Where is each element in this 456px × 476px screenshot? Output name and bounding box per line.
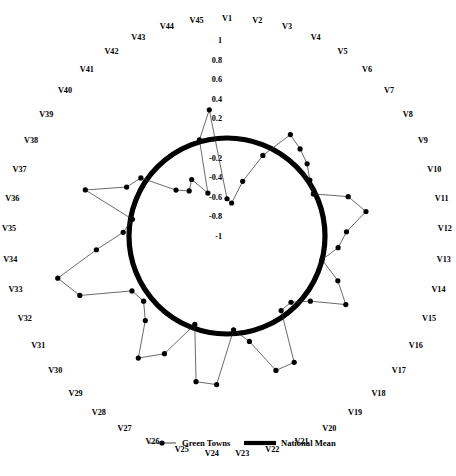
data-point-marker bbox=[214, 382, 219, 387]
category-label-v8: V8 bbox=[403, 110, 413, 119]
category-label-v16: V16 bbox=[409, 341, 423, 350]
category-label-v42: V42 bbox=[104, 47, 118, 56]
tick-label: 1 bbox=[218, 36, 222, 45]
data-point-marker bbox=[279, 308, 284, 313]
data-point-marker bbox=[319, 257, 324, 262]
category-label-v4: V4 bbox=[311, 33, 321, 42]
category-label-v30: V30 bbox=[48, 366, 62, 375]
category-label-v29: V29 bbox=[69, 389, 83, 398]
category-label-v2: V2 bbox=[252, 16, 262, 25]
category-label-v6: V6 bbox=[362, 65, 372, 74]
category-label-v36: V36 bbox=[5, 194, 19, 203]
data-point-marker bbox=[224, 196, 229, 201]
category-label-v1: V1 bbox=[222, 14, 232, 23]
category-label-v5: V5 bbox=[338, 47, 348, 56]
data-point-marker bbox=[231, 327, 236, 332]
legend-label-national-mean: National Mean bbox=[281, 438, 336, 448]
green-towns-series-line bbox=[58, 110, 366, 385]
data-point-marker bbox=[129, 288, 134, 293]
category-label-v3: V3 bbox=[282, 22, 292, 31]
tick-label: -0.8 bbox=[209, 212, 222, 221]
category-label-v24: V24 bbox=[205, 449, 219, 458]
category-label-v18: V18 bbox=[371, 389, 385, 398]
category-label-v15: V15 bbox=[422, 314, 436, 323]
data-point-marker bbox=[193, 379, 198, 384]
data-point-marker bbox=[311, 191, 316, 196]
data-point-marker bbox=[297, 146, 302, 151]
data-point-marker bbox=[189, 177, 194, 182]
category-label-v23: V23 bbox=[235, 449, 249, 458]
category-label-v31: V31 bbox=[31, 341, 45, 350]
data-point-marker bbox=[343, 302, 348, 307]
data-point-marker bbox=[205, 190, 210, 195]
data-point-marker bbox=[197, 137, 202, 142]
data-point-marker bbox=[273, 368, 278, 373]
category-label-v14: V14 bbox=[431, 285, 445, 294]
data-point-marker bbox=[336, 245, 341, 250]
data-point-marker bbox=[143, 318, 148, 323]
category-label-v34: V34 bbox=[3, 255, 17, 264]
category-label-v10: V10 bbox=[427, 165, 441, 174]
category-label-v11: V11 bbox=[435, 194, 449, 203]
tick-label: 0.2 bbox=[212, 114, 222, 123]
data-point-marker bbox=[83, 187, 88, 192]
category-label-v22: V22 bbox=[265, 445, 279, 454]
data-point-marker bbox=[288, 300, 293, 305]
data-point-marker bbox=[124, 184, 129, 189]
tick-label: -0.6 bbox=[209, 193, 222, 202]
radar-chart-svg: 10.80.60.40.2-0.2-0.4-0.6-0.8-1 V1V2V3V4… bbox=[0, 0, 456, 476]
category-label-v17: V17 bbox=[392, 366, 406, 375]
data-point-marker bbox=[308, 299, 313, 304]
category-label-v19: V19 bbox=[348, 408, 362, 417]
category-label-v28: V28 bbox=[92, 408, 106, 417]
data-point-marker bbox=[130, 217, 135, 222]
data-point-marker bbox=[187, 188, 192, 193]
data-point-marker bbox=[141, 299, 146, 304]
category-label-v26: V26 bbox=[145, 437, 159, 446]
category-label-v33: V33 bbox=[8, 285, 22, 294]
data-point-marker bbox=[344, 229, 349, 234]
category-label-v40: V40 bbox=[58, 86, 72, 95]
category-label-v37: V37 bbox=[13, 165, 27, 174]
national-mean-reference-circle bbox=[129, 138, 325, 334]
category-label-v9: V9 bbox=[418, 136, 428, 145]
data-point-marker bbox=[121, 230, 126, 235]
category-label-v12: V12 bbox=[438, 224, 452, 233]
category-axis-labels: V1V2V3V4V5V6V7V8V9V10V11V12V13V14V15V16V… bbox=[2, 14, 452, 458]
data-point-marker bbox=[363, 209, 368, 214]
radar-chart-figure: 10.80.60.40.2-0.2-0.4-0.6-0.8-1 V1V2V3V4… bbox=[0, 0, 456, 476]
data-point-marker bbox=[136, 356, 141, 361]
data-point-marker bbox=[207, 107, 212, 112]
green-towns-series-markers bbox=[55, 107, 368, 387]
data-point-marker bbox=[288, 132, 293, 137]
data-point-marker bbox=[138, 175, 143, 180]
data-point-marker bbox=[260, 153, 265, 158]
tick-label: -0.2 bbox=[209, 154, 222, 163]
category-label-v43: V43 bbox=[131, 33, 145, 42]
tick-label: -1 bbox=[215, 232, 222, 241]
data-point-marker bbox=[55, 276, 60, 281]
tick-label: 0.8 bbox=[212, 56, 222, 65]
tick-label: -0.4 bbox=[209, 173, 222, 182]
category-label-v35: V35 bbox=[2, 224, 16, 233]
category-label-v27: V27 bbox=[118, 424, 132, 433]
data-point-marker bbox=[335, 278, 340, 283]
legend-label-green-towns: Green Towns bbox=[182, 438, 231, 448]
data-point-marker bbox=[173, 188, 178, 193]
data-point-marker bbox=[305, 161, 310, 166]
legend-marker-green-towns bbox=[159, 440, 164, 445]
data-point-marker bbox=[162, 351, 167, 356]
data-point-marker bbox=[307, 178, 312, 183]
national-mean-circle bbox=[129, 138, 325, 334]
data-point-marker bbox=[292, 360, 297, 365]
data-point-marker bbox=[192, 322, 197, 327]
data-point-marker bbox=[94, 247, 99, 252]
category-label-v44: V44 bbox=[160, 22, 174, 31]
data-point-marker bbox=[247, 339, 252, 344]
data-point-marker bbox=[77, 293, 82, 298]
data-point-marker bbox=[229, 200, 234, 205]
data-point-marker bbox=[240, 179, 245, 184]
tick-label: 0.6 bbox=[212, 75, 222, 84]
category-label-v20: V20 bbox=[322, 424, 336, 433]
category-label-v38: V38 bbox=[24, 136, 38, 145]
